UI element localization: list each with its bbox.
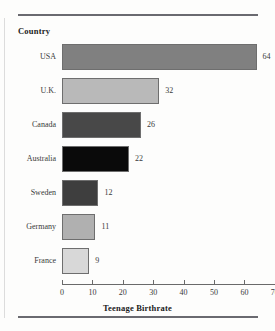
bar-row: Australia22 [0, 142, 275, 176]
x-tick [184, 280, 185, 285]
category-label: Sweden [0, 176, 56, 210]
bar [62, 44, 257, 70]
category-label: USA [0, 40, 56, 74]
bar-value-label: 9 [95, 244, 99, 278]
plot-area: USA64U.K.32Canada26Australia22Sweden12Ge… [0, 0, 275, 331]
category-label: Canada [0, 108, 56, 142]
bar-row: Sweden12 [0, 176, 275, 210]
bar-row: France9 [0, 244, 275, 278]
bar-value-label: 64 [263, 40, 271, 74]
bar [62, 78, 159, 104]
x-tick-label: 40 [180, 288, 188, 297]
bar-value-label: 32 [165, 74, 173, 108]
bar-row: Canada26 [0, 108, 275, 142]
category-label: U.K. [0, 74, 56, 108]
bar [62, 180, 98, 206]
x-tick [153, 280, 154, 285]
bar-row: USA64 [0, 40, 275, 74]
x-tick-label: 0 [60, 288, 64, 297]
x-tick-label: 50 [210, 288, 218, 297]
bar-row: Germany11 [0, 210, 275, 244]
x-axis-line [62, 284, 275, 285]
x-tick [244, 280, 245, 285]
bar-value-label: 26 [147, 108, 155, 142]
x-tick [214, 280, 215, 285]
x-tick [123, 280, 124, 285]
bar [62, 112, 141, 138]
x-tick-label: 30 [149, 288, 157, 297]
bar [62, 214, 95, 240]
bar [62, 248, 89, 274]
bar [62, 146, 129, 172]
bar-row: U.K.32 [0, 74, 275, 108]
x-tick-label: 10 [88, 288, 96, 297]
bar-value-label: 12 [104, 176, 112, 210]
bar-value-label: 22 [135, 142, 143, 176]
x-axis-title: Teenage Birthrate [0, 303, 275, 313]
x-tick [62, 280, 63, 285]
x-tick [92, 280, 93, 285]
x-tick-label: 60 [240, 288, 248, 297]
x-tick-label: 20 [119, 288, 127, 297]
x-tick-label: 70 [271, 288, 275, 297]
bar-value-label: 11 [101, 210, 109, 244]
category-label: France [0, 244, 56, 278]
category-label: Germany [0, 210, 56, 244]
category-label: Australia [0, 142, 56, 176]
chart-page: Country USA64U.K.32Canada26Australia22Sw… [0, 0, 275, 331]
